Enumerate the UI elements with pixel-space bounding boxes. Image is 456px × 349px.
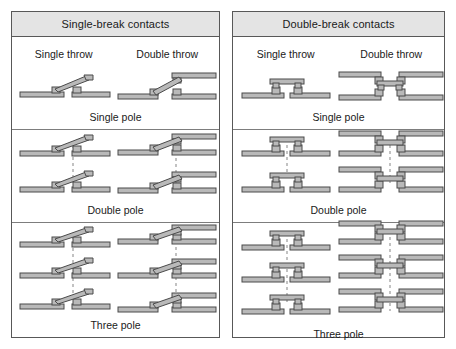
pole-label-double: Double pole <box>12 203 219 222</box>
symbol-spdt-double-break <box>339 68 443 106</box>
panel-header-single-break: Single-break contacts <box>12 12 219 37</box>
symbol-spst-double-break <box>240 71 332 103</box>
row-single-break-three-pole: Three pole <box>12 223 219 337</box>
cell-sb-dt-1p <box>116 64 220 110</box>
row-single-break-double-pole: Double pole <box>12 130 219 223</box>
cell-db-st-3p <box>233 223 339 327</box>
throw-heading-double: Double throw <box>339 48 445 60</box>
cell-db-dt-1p <box>339 64 445 110</box>
throw-heading-double: Double throw <box>116 48 220 60</box>
symbol-cells <box>12 223 219 318</box>
cell-sb-st-1p <box>12 64 116 110</box>
cell-db-dt-3p <box>339 223 445 327</box>
cell-sb-dt-3p <box>116 223 220 318</box>
throw-heading-single: Single throw <box>233 48 339 60</box>
row-double-break-double-pole: Double pole <box>233 130 444 223</box>
symbol-cells <box>12 130 219 203</box>
throw-headings: Single throw Double throw <box>233 37 444 64</box>
symbol-spdt-single-break <box>116 68 218 106</box>
panel-single-break: Single-break contacts Single throw Doubl… <box>11 11 220 338</box>
diagram-sheet: Single-break contacts Single throw Doubl… <box>0 0 456 349</box>
panel-double-break: Double-break contacts Single throw Doubl… <box>232 11 445 338</box>
symbol-dpdt-double-break <box>339 131 443 203</box>
symbol-cells <box>233 223 444 327</box>
rows-double-break: Single throw Double throw <box>233 37 444 337</box>
symbol-3pst-single-break <box>16 228 112 314</box>
symbol-dpst-double-break <box>240 135 332 199</box>
throw-heading-single: Single throw <box>12 48 116 60</box>
panel-header-double-break: Double-break contacts <box>233 12 444 37</box>
symbol-cells <box>233 64 444 110</box>
cell-sb-st-3p <box>12 223 116 318</box>
cell-db-dt-2p <box>339 130 445 203</box>
rows-single-break: Single throw Double throw <box>12 37 219 337</box>
symbol-3pdt-double-break <box>339 223 443 327</box>
pole-label-single: Single pole <box>12 110 219 129</box>
symbol-dpst-single-break <box>16 135 112 199</box>
pole-label-double: Double pole <box>233 203 444 222</box>
row-single-break-single-pole: Single throw Double throw <box>12 37 219 130</box>
row-double-break-single-pole: Single throw Double throw <box>233 37 444 130</box>
symbol-3pst-double-break <box>240 231 332 319</box>
symbol-3pdt-single-break <box>116 225 218 317</box>
cell-db-st-2p <box>233 130 339 203</box>
cell-db-st-1p <box>233 64 339 110</box>
pole-label-three: Three pole <box>12 318 219 337</box>
pole-label-three: Three pole <box>233 327 444 341</box>
cell-sb-dt-2p <box>116 130 220 203</box>
cell-sb-st-2p <box>12 130 116 203</box>
symbol-dpdt-single-break <box>116 132 218 202</box>
symbol-cells <box>233 130 444 203</box>
row-double-break-three-pole: Three pole <box>233 223 444 337</box>
symbol-cells <box>12 64 219 110</box>
pole-label-single: Single pole <box>233 110 444 129</box>
symbol-spst-single-break <box>16 70 112 104</box>
throw-headings: Single throw Double throw <box>12 37 219 64</box>
